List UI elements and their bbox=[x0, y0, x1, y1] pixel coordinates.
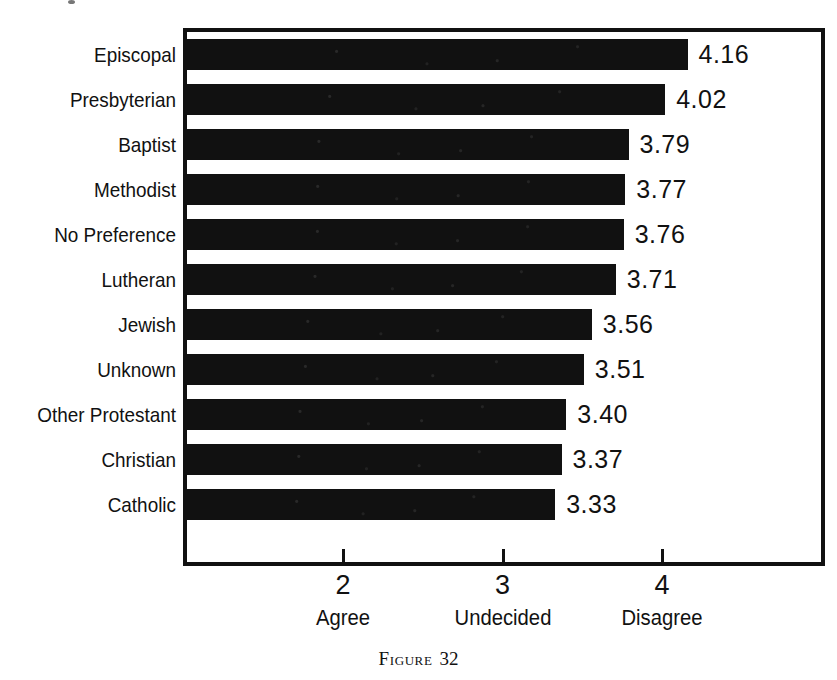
axis-tick bbox=[342, 549, 345, 566]
figure-caption: Figure32 bbox=[0, 648, 837, 670]
axis-tick-label: 2 bbox=[313, 570, 373, 600]
scale-anchor-label: Undecided bbox=[434, 605, 572, 631]
value-axis: 2Agree3Undecided4Disagree bbox=[0, 0, 837, 680]
scale-anchor-label: Agree bbox=[274, 605, 412, 631]
axis-tick bbox=[502, 549, 505, 566]
axis-tick-label: 3 bbox=[473, 570, 533, 600]
figure-caption-number: 32 bbox=[439, 648, 458, 669]
figure-32-chart: EpiscopalPresbyterianBaptistMethodistNo … bbox=[0, 0, 837, 680]
axis-tick bbox=[661, 549, 664, 566]
axis-tick-label: 4 bbox=[632, 570, 692, 600]
figure-caption-prefix: Figure bbox=[379, 648, 433, 669]
scale-anchor-label: Disagree bbox=[593, 605, 731, 631]
